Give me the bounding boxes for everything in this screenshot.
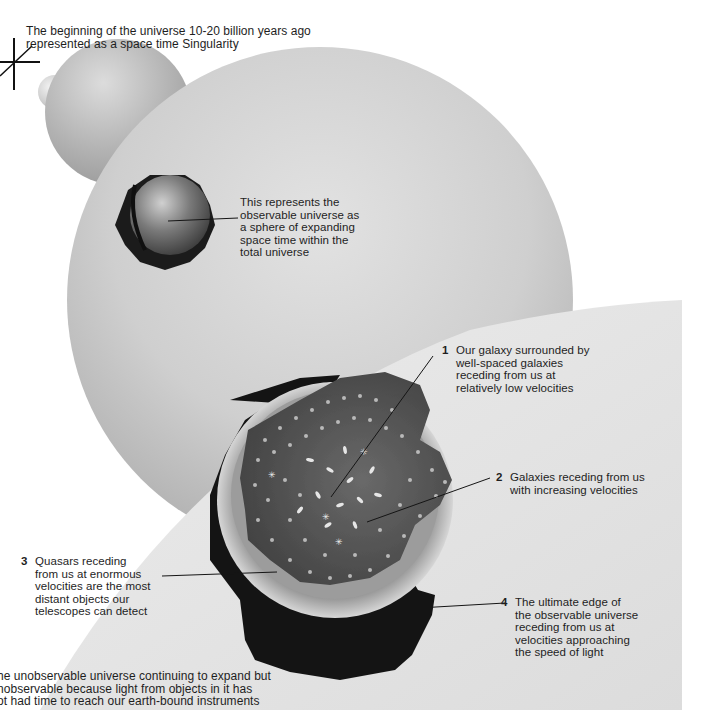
label-line: from us at enormous xyxy=(35,568,151,581)
label-line: The ultimate edge of xyxy=(515,596,638,609)
label-line: space time within the xyxy=(240,234,359,247)
universe-diagram: ✳ ✳ ✳ ✳ The beginning of the universe 10… xyxy=(0,0,701,721)
label-line: telescopes can detect xyxy=(35,605,151,618)
label-line: velocities are the most xyxy=(35,580,151,593)
label-line: well-spaced galaxies xyxy=(456,357,590,370)
singularity-label-line2: represented as a space time Singularity xyxy=(26,38,311,51)
singularity-label: The beginning of the universe 10-20 bill… xyxy=(26,25,311,50)
label-line: Quasars receding xyxy=(35,555,151,568)
label-line: he unobservable universe continuing to e… xyxy=(0,670,271,683)
callout-number: 2 xyxy=(496,471,502,484)
unobservable-universe-label: he unobservable universe continuing to e… xyxy=(0,670,271,708)
label-line: total universe xyxy=(240,246,359,259)
label-line: a sphere of expanding xyxy=(240,221,359,234)
callout-4: 4 The ultimate edge of the observable un… xyxy=(515,596,638,659)
label-line: distant objects our xyxy=(35,593,151,606)
label-line: ot had time to reach our earth-bound ins… xyxy=(0,695,271,708)
svg-text:✳: ✳ xyxy=(268,470,276,480)
label-line: Our galaxy surrounded by xyxy=(456,344,590,357)
callout-number: 4 xyxy=(501,596,507,609)
label-line: the speed of light xyxy=(515,646,638,659)
label-line: the observable universe xyxy=(515,609,638,622)
callout-number: 3 xyxy=(21,555,27,568)
label-line: receding from us at xyxy=(456,369,590,382)
label-line: with increasing velocities xyxy=(510,484,645,497)
callout-number: 1 xyxy=(442,344,448,357)
label-line: relatively low velocities xyxy=(456,382,590,395)
svg-text:✳: ✳ xyxy=(322,512,330,522)
svg-text:✳: ✳ xyxy=(335,537,343,547)
label-line: Galaxies receding from us xyxy=(510,471,645,484)
callout-3: 3 Quasars receding from us at enormous v… xyxy=(35,555,151,618)
singularity-label-line1: The beginning of the universe 10-20 bill… xyxy=(26,25,311,38)
label-line: receding from us at xyxy=(515,621,638,634)
label-line: observable universe as xyxy=(240,209,359,222)
label-line: This represents the xyxy=(240,196,359,209)
callout-2: 2 Galaxies receding from us with increas… xyxy=(510,471,645,496)
callout-1: 1 Our galaxy surrounded by well-spaced g… xyxy=(456,344,590,394)
label-line: velocities approaching xyxy=(515,634,638,647)
observable-sphere-label: This represents the observable universe … xyxy=(240,196,359,259)
